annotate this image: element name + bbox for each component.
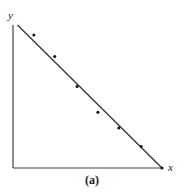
- data-point: [53, 55, 56, 58]
- data-point: [76, 85, 79, 88]
- scatter-chart: y x (a): [0, 0, 184, 195]
- y-axis-label: y: [7, 9, 13, 21]
- data-point: [140, 145, 143, 148]
- data-point: [96, 111, 99, 114]
- figure-caption: (a): [0, 173, 184, 188]
- plot-area: y x: [0, 0, 184, 195]
- data-point: [32, 34, 35, 37]
- data-point: [161, 167, 164, 170]
- x-axis-label: x: [167, 161, 173, 173]
- data-points: [32, 34, 163, 170]
- data-point: [117, 126, 120, 129]
